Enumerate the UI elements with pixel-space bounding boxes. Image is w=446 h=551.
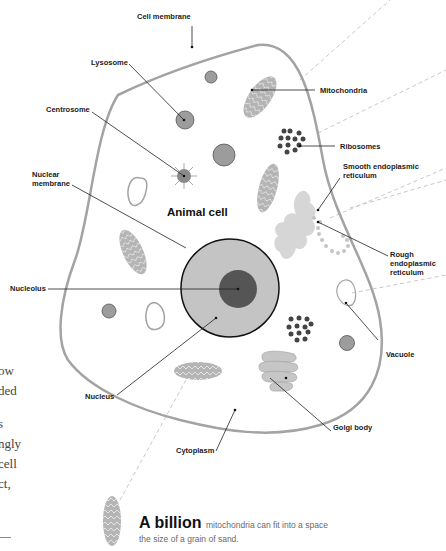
leader-lysosome — [129, 64, 184, 120]
side-text-line: ded — [0, 381, 17, 401]
label-vacuole: Vacuole — [386, 350, 414, 359]
dashed-guide-mito-fact — [120, 380, 186, 500]
label-smooth-er-line2: reticulum — [343, 171, 377, 180]
label-cell-membrane: Cell membrane — [137, 12, 191, 21]
label-mitochondria: Mitochondria — [320, 86, 368, 95]
leader-golgi — [270, 378, 331, 431]
leader-rough-er — [318, 222, 388, 256]
dashed-guide-rough-er — [350, 180, 446, 208]
leader-centrosome — [92, 112, 184, 176]
fact-highlight: A billion — [139, 514, 202, 531]
side-divider — [0, 537, 11, 538]
side-text-line: ngly — [0, 434, 21, 454]
fact-callout: A billion mitochondria can fit into a sp… — [139, 514, 328, 532]
vacuole-upper-left — [128, 178, 147, 206]
dashed-guide-ribosomes — [318, 70, 446, 133]
lysosome-small — [205, 71, 217, 83]
label-rough-er-line2: endoplasmic — [390, 259, 436, 268]
vacuole-lower-left — [146, 303, 164, 330]
label-golgi-body: Golgi body — [333, 423, 373, 432]
fact-text-line1: mitochondria can fit into a space — [206, 520, 328, 530]
label-rough-er-line3: reticulum — [390, 268, 424, 277]
label-centrosome: Centrosome — [46, 105, 90, 114]
side-text-line: cell — [0, 454, 17, 474]
label-lysosome: Lysosome — [91, 58, 128, 67]
lysosome-large — [213, 144, 235, 166]
ribosomes-upper — [278, 129, 306, 155]
diagram-title: Animal cell — [167, 206, 228, 218]
fact-text-line2: the size of a grain of sand. — [139, 534, 239, 544]
label-nucleolus: Nucleolus — [10, 284, 46, 293]
lysosome-right — [340, 336, 355, 351]
label-rough-er-line1: Rough — [390, 250, 414, 259]
label-smooth-er-line1: Smooth endoplasmic — [343, 162, 419, 171]
smooth-er — [274, 191, 315, 259]
leader-vacuole — [346, 303, 378, 340]
leader-nucleus — [117, 318, 216, 395]
label-nuclear-membrane-line2: membrane — [32, 179, 70, 188]
ribosomes-lower — [287, 316, 314, 343]
label-nucleus: Nucleus — [85, 392, 114, 401]
label-ribosomes: Ribosomes — [340, 142, 380, 151]
label-nuclear-membrane-line1: Nuclear — [32, 170, 60, 179]
lysosome-left — [102, 304, 116, 318]
side-text-line: s — [0, 414, 3, 434]
cell-membrane — [61, 45, 382, 433]
dashed-guide-mitochondria — [300, 0, 390, 80]
side-text-line: ct, — [0, 474, 11, 494]
animal-cell-diagram: Animal cell Cell membrane Lysosome Centr… — [0, 0, 446, 551]
label-cytoplasm: Cytoplasm — [176, 446, 215, 455]
side-text-line: ow — [0, 361, 14, 381]
